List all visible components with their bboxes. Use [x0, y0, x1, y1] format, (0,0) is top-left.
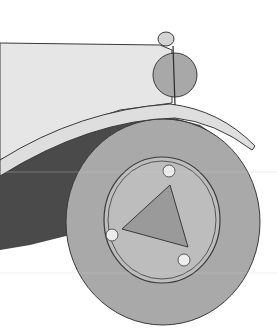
- side-lamp: [158, 32, 174, 46]
- vintage-car-illustration: [0, 0, 277, 336]
- lug-nut-top: [163, 165, 175, 177]
- lug-nut-left: [106, 229, 118, 241]
- car-drawing: [0, 0, 277, 336]
- lug-nut-right: [178, 254, 190, 266]
